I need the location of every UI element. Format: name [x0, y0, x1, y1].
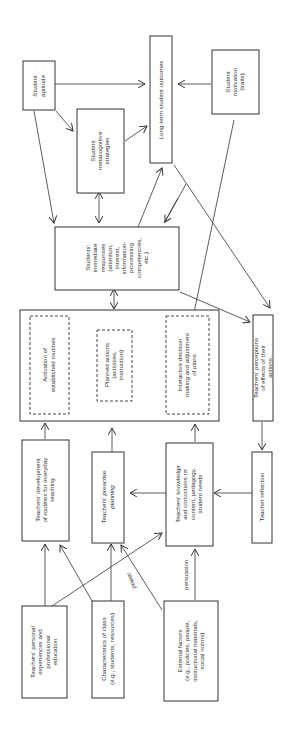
svg-text:aptitude: aptitude: [39, 74, 46, 97]
svg-text:and convictions re:: and convictions re:: [181, 468, 188, 520]
edge-aptitude-immediate: [34, 111, 54, 223]
svg-text:instructional materials,: instructional materials,: [191, 620, 198, 682]
svg-text:Planned actions: Planned actions: [103, 343, 110, 387]
label-student-aptitude: Studentaptitude: [31, 74, 45, 97]
svg-text:teaching: teaching: [48, 478, 55, 502]
svg-text:motivation: motivation: [231, 67, 238, 96]
svg-text:etc.): etc.): [142, 252, 149, 264]
edge-motivation-immediate-arrow: [165, 184, 186, 222]
edge-aptitude-metacognitive: [56, 111, 73, 131]
svg-text:established routines: established routines: [49, 337, 56, 392]
svg-text:strategies: strategies: [103, 138, 110, 165]
svg-text:(activities,: (activities,: [110, 351, 117, 379]
svg-text:making and adjustment: making and adjustment: [183, 333, 190, 397]
label-long-term-outcomes: Long-term student outcomes: [157, 61, 164, 140]
edge-metacognitive-longterm: [125, 126, 147, 141]
svg-text:professional: professional: [44, 635, 51, 668]
svg-text:interest,: interest,: [113, 247, 120, 269]
svg-text:Interactive decision: Interactive decision: [176, 338, 183, 392]
svg-text:Teachers' personal: Teachers' personal: [29, 626, 36, 678]
svg-text:experiences and: experiences and: [36, 629, 43, 675]
edge-label-power: power: [124, 571, 137, 591]
svg-text:instruction): instruction): [117, 350, 124, 380]
svg-text:Teachers' perceptions: Teachers' perceptions: [252, 338, 259, 398]
svg-text:Teacher reflection: Teacher reflection: [258, 472, 265, 521]
edge-label-persuasion: persuasion: [182, 559, 189, 590]
svg-text:Student: Student: [89, 140, 96, 162]
svg-text:(e.g., students, resources): (e.g., students, resources): [108, 613, 115, 685]
svg-text:information-: information-: [120, 242, 127, 275]
svg-text:social norms): social norms): [198, 633, 205, 670]
edge-characteristics-routines: [60, 545, 92, 601]
label-characteristics-class: Characteristics of class(e.g., students,…: [100, 613, 114, 685]
svg-text:Teachers' development: Teachers' development: [34, 458, 41, 522]
svg-text:Student: Student: [31, 75, 38, 97]
svg-text:Student: Student: [224, 71, 231, 93]
edge-personal-knowledge: [52, 533, 162, 606]
svg-text:content, pedagogy,: content, pedagogy,: [189, 468, 196, 520]
svg-text:processing: processing: [127, 242, 134, 272]
svg-text:education: education: [51, 638, 58, 665]
svg-text:Characteristics of class: Characteristics of class: [100, 617, 107, 681]
svg-text:(attention,: (attention,: [106, 244, 113, 272]
svg-text:Activation of: Activation of: [41, 348, 48, 382]
edge-immediate-longterm: [138, 168, 162, 227]
svg-text:(traits): (traits): [238, 73, 245, 91]
svg-text:Teachers' preactive: Teachers' preactive: [100, 470, 107, 524]
svg-text:of plans: of plans: [190, 354, 197, 376]
svg-text:student needs: student needs: [196, 475, 203, 514]
svg-text:Long-term student outcomes: Long-term student outcomes: [157, 61, 164, 140]
svg-text:of effects of their: of effects of their: [259, 345, 266, 391]
svg-text:actions: actions: [266, 358, 273, 378]
svg-text:planning: planning: [108, 485, 115, 510]
label-teacher-reflection: Teacher reflection: [258, 472, 265, 521]
svg-text:External factors: External factors: [176, 630, 183, 673]
svg-text:competencies,: competencies,: [135, 238, 142, 278]
svg-text:(e.g., policies, people,: (e.g., policies, people,: [183, 621, 190, 681]
svg-text:Teachers' knowledge: Teachers' knowledge: [174, 465, 181, 523]
svg-text:of routines for everyday: of routines for everyday: [41, 457, 48, 523]
svg-text:Students': Students': [84, 245, 91, 271]
teaching-model-diagram: power persuasion Studentaptitude Student…: [0, 0, 298, 732]
edge-longterm-perceptions: [174, 165, 270, 308]
svg-text:immediate: immediate: [91, 243, 98, 272]
svg-text:responses: responses: [99, 244, 106, 273]
svg-text:metacognitive: metacognitive: [96, 131, 103, 170]
